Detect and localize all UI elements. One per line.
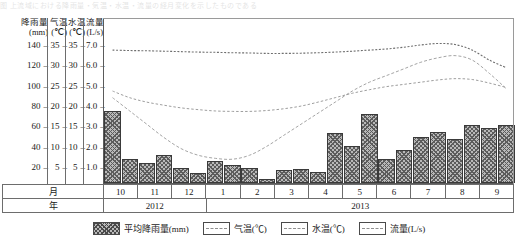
axis-rainfall: 降雨量(mm)140–120–100–80–60–40–20–: [2, 18, 48, 184]
axis-tick-flow-7.0: 7.0–: [86, 41, 103, 50]
month-cell-8: 8: [446, 185, 480, 198]
plot-area: [103, 18, 514, 184]
bar-2013-5a: [344, 146, 360, 183]
bar-2013-4b: [327, 133, 343, 183]
year-cell-2013: 2013: [207, 199, 515, 212]
bar-2012-12b: [190, 173, 206, 183]
legend-label-rainfall: 平均降雨量(mm): [124, 222, 189, 235]
legend-item-rainfall: 平均降雨量(mm): [93, 222, 189, 235]
bar-2013-1a: [207, 161, 223, 183]
axis-tick-rainfall-140: 140–: [2, 41, 48, 50]
bar-2013-5b: [361, 114, 377, 183]
curve-water-temp: [113, 79, 507, 112]
bar-2013-3a: [276, 170, 292, 183]
legend-label-air-temp: 气温(℃): [234, 222, 267, 235]
bar-2013-7b: [430, 132, 446, 183]
legend-label-water-temp: 水温(℃): [312, 222, 345, 235]
month-row: 月 101112123456789: [2, 184, 514, 199]
month-year-table: 月 101112123456789 年 20122013: [2, 184, 514, 214]
month-cell-3: 3: [275, 185, 309, 198]
axis-divider-water-temp: [65, 18, 66, 184]
axis-flow: 流量(L/s)7.0–6.0–5.0–4.0–3.0–2.0–1.0–: [86, 18, 103, 184]
month-cell-11: 11: [138, 185, 172, 198]
bar-2013-9b: [498, 125, 514, 183]
cropped-caption-strip: 图 上流域における降雨量・気温・水温・流量の経月変化を示したものである: [0, 0, 518, 12]
month-cell-1: 1: [207, 185, 241, 198]
bar-2013-2a: [241, 168, 257, 183]
month-cell-5: 5: [343, 185, 377, 198]
axis-unit-rainfall: (mm): [2, 28, 48, 37]
axis-unit-flow: (L/s): [86, 28, 103, 37]
bar-2013-6a: [378, 159, 394, 183]
axis-divider-air-temp: [47, 18, 48, 184]
legend-dash-air-temp: [206, 228, 227, 229]
bar-2013-7a: [413, 137, 429, 183]
year-row: 年 20122013: [2, 198, 514, 213]
axis-title-flow: 流量: [86, 18, 103, 27]
year-cell-2012: 2012: [104, 199, 207, 212]
axis-title-rainfall: 降雨量: [2, 18, 48, 27]
bar-2012-10a: [104, 111, 120, 183]
legend-swatch-water-temp: [281, 222, 308, 235]
legend-dash-water-temp: [284, 228, 305, 229]
axis-tick-rainfall-120: 120–: [2, 61, 48, 70]
bar-2012-11a: [139, 163, 155, 183]
legend-item-water-temp: 水温(℃): [281, 222, 345, 235]
axis-tick-flow-1.0: 1.0–: [86, 163, 103, 172]
axis-tick-rainfall-80: 80–: [2, 102, 48, 111]
month-cell-12: 12: [172, 185, 206, 198]
axis-tick-rainfall-40: 40–: [2, 143, 48, 152]
legend-swatch-flow: [359, 222, 386, 235]
axis-tick-rainfall-100: 100–: [2, 82, 48, 91]
legend-item-air-temp: 气温(℃): [203, 222, 267, 235]
bar-2013-4a: [310, 172, 326, 183]
month-cell-10: 10: [104, 185, 138, 198]
axis-tick-rainfall-20: 20–: [2, 163, 48, 172]
bar-2013-6b: [396, 150, 412, 183]
axis-tick-flow-6.0: 6.0–: [86, 61, 103, 70]
axis-tick-flow-2.0: 2.0–: [86, 143, 103, 152]
bar-2013-9a: [481, 128, 497, 183]
bar-2013-8a: [447, 139, 463, 183]
legend-swatch-rainfall: [93, 222, 120, 235]
legend-swatch-air-temp: [203, 222, 230, 235]
month-cell-2: 2: [241, 185, 275, 198]
bar-2013-1b: [224, 165, 240, 183]
bar-2012-12a: [173, 168, 189, 183]
chart-legend: 平均降雨量(mm)气温(℃)水温(℃)流量(L/s): [0, 218, 518, 238]
axis-tick-flow-5.0: 5.0–: [86, 82, 103, 91]
legend-dash-flow: [362, 228, 383, 229]
axis-divider-flow: [83, 18, 84, 184]
month-cell-6: 6: [377, 185, 411, 198]
bar-2012-11b: [156, 155, 172, 183]
axis-tick-flow-4.0: 4.0–: [86, 102, 103, 111]
month-cell-9: 9: [480, 185, 514, 198]
bar-2013-3b: [293, 169, 309, 183]
bar-2013-2b: [259, 179, 275, 183]
year-row-header: 年: [3, 199, 104, 212]
month-cell-7: 7: [412, 185, 446, 198]
legend-item-flow: 流量(L/s): [359, 222, 426, 235]
legend-label-flow: 流量(L/s): [390, 222, 426, 235]
axis-label-block: 降雨量(mm)140–120–100–80–60–40–20–气温(℃)35–3…: [2, 18, 103, 184]
month-cell-4: 4: [309, 185, 343, 198]
bar-2012-10b: [122, 159, 138, 183]
bar-2013-8b: [464, 125, 480, 183]
axis-tick-rainfall-60: 60–: [2, 122, 48, 131]
axis-tick-flow-3.0: 3.0–: [86, 122, 103, 131]
curve-flow: [113, 43, 507, 67]
month-row-header: 月: [3, 185, 104, 198]
